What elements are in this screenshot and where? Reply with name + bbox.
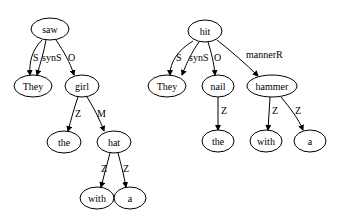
tree-saw-edges: SsynSOZMZZ — [30, 40, 129, 187]
node-label: They — [157, 81, 178, 92]
edge-z: Z — [218, 97, 227, 130]
node-the: the — [202, 130, 234, 152]
tree-hit-nodes: hitTheynailhammerthewitha — [148, 20, 326, 152]
edge-z: Z — [68, 97, 81, 131]
edge-label: O — [68, 52, 75, 63]
node-label: saw — [42, 24, 58, 35]
node-a: a — [114, 187, 146, 209]
node-label: girl — [75, 81, 89, 92]
node-label: with — [88, 193, 106, 204]
edge-s: S — [30, 40, 42, 75]
edge-z: Z — [281, 97, 303, 130]
edge-label: O — [214, 52, 221, 63]
edge-mannerr: mannerR — [217, 40, 283, 76]
edge-label: mannerR — [246, 49, 283, 60]
edge-syns: synS — [37, 40, 61, 75]
node-label: hammer — [256, 81, 289, 92]
node-label: hat — [108, 137, 120, 148]
edge-label: Z — [123, 163, 129, 174]
edges-layer: SsynSOZMZZSsynSOmannerRZZZ — [30, 40, 303, 187]
node-saw: saw — [31, 18, 69, 40]
edge-label: Z — [221, 105, 227, 116]
edge-label: S — [33, 52, 39, 63]
edge-z: Z — [118, 153, 129, 187]
edge-label: Z — [101, 163, 107, 174]
edge-arrow — [268, 97, 270, 130]
dependency-tree-diagram: SsynSOZMZZSsynSOmannerRZZZ sawTheygirlth… — [0, 0, 341, 224]
node-label: a — [308, 136, 313, 147]
node-they: They — [14, 75, 52, 97]
edge-label: synS — [189, 52, 208, 63]
node-with: with — [250, 130, 282, 152]
node-they: They — [148, 75, 186, 97]
node-the: the — [47, 131, 81, 153]
node-label: the — [212, 136, 225, 147]
node-with: with — [80, 187, 114, 209]
edge-label: Z — [272, 105, 278, 116]
edge-label: synS — [42, 52, 61, 63]
edge-z: Z — [268, 97, 278, 130]
node-label: a — [128, 193, 133, 204]
node-label: the — [58, 137, 71, 148]
node-hit: hit — [188, 20, 222, 42]
edge-label: M — [97, 108, 106, 119]
edge-syns: synS — [182, 42, 208, 75]
edge-o: O — [208, 42, 221, 75]
node-label: with — [257, 136, 275, 147]
node-girl: girl — [65, 75, 99, 97]
edge-m: M — [87, 97, 106, 131]
edge-z: Z — [101, 153, 110, 187]
edge-label: S — [176, 52, 182, 63]
node-label: nail — [211, 81, 226, 92]
node-hat: hat — [97, 131, 131, 153]
node-hammer: hammer — [247, 75, 297, 97]
node-a: a — [294, 130, 326, 152]
node-label: They — [23, 81, 44, 92]
node-label: hit — [200, 26, 211, 37]
node-nail: nail — [202, 75, 234, 97]
edge-label: Z — [295, 105, 301, 116]
edge-label: Z — [75, 108, 81, 119]
